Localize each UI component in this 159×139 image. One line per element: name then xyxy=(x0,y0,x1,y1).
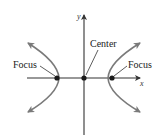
focus-right-leader xyxy=(114,66,127,76)
labels: Center Focus Focus xyxy=(13,38,152,70)
focus-left-point xyxy=(54,75,59,80)
right-branch-lower xyxy=(108,78,140,112)
hyperbola-diagram: x y Center Focus Focus xyxy=(0,0,159,139)
focus-left-leader xyxy=(40,66,55,76)
y-axis-label: y xyxy=(76,12,81,21)
center-label: Center xyxy=(90,38,117,49)
axes: x y xyxy=(27,12,144,135)
focus-left-label: Focus xyxy=(13,59,37,70)
focus-right-label: Focus xyxy=(128,59,152,70)
x-axis-label: x xyxy=(139,79,144,88)
left-branch-lower xyxy=(28,78,59,112)
focus-right-point xyxy=(109,75,114,80)
center-leader xyxy=(86,50,98,75)
center-point xyxy=(81,75,86,80)
